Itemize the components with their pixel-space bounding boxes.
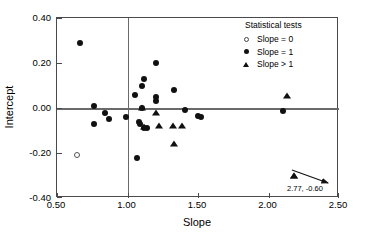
legend-item[interactable]: Slope = 1: [238, 46, 302, 58]
y-axis-tick-label: -0.40: [29, 192, 51, 203]
data-point: [141, 76, 147, 82]
y-axis-tick-label: 0.20: [33, 57, 52, 68]
legend-item[interactable]: Slope > 1: [238, 58, 302, 70]
data-point: [155, 122, 163, 128]
y-axis-tick-label: 0.00: [33, 102, 52, 113]
legend-title: Statistical tests: [245, 19, 302, 31]
data-point: [182, 107, 188, 113]
legend: Statistical tests Slope = 0Slope = 1Slop…: [238, 19, 302, 70]
data-point: [132, 92, 138, 98]
y-axis-tick: [57, 108, 62, 109]
x-axis-tick: [128, 193, 129, 198]
data-point: [153, 98, 159, 104]
filled-circle-icon: [238, 49, 254, 54]
data-point: [178, 122, 186, 128]
annotation-label: 2.77, -0.60: [287, 184, 323, 193]
y-axis-tick-label: -0.20: [29, 147, 51, 158]
x-axis-tick-label: 1.00: [117, 199, 136, 210]
y-axis-title: Intercept: [3, 86, 15, 129]
data-point: [123, 114, 129, 120]
x-axis-tick: [198, 193, 199, 198]
data-point: [140, 124, 148, 130]
y-axis-tick: [57, 18, 62, 19]
data-point: [171, 87, 177, 93]
legend-item-label: Slope = 1: [257, 46, 293, 58]
open-circle-icon: [238, 37, 254, 42]
x-axis-tick-label: 2.50: [329, 199, 348, 210]
data-point: [198, 114, 204, 120]
data-point: [91, 121, 97, 127]
data-point: [280, 108, 286, 114]
data-point: [152, 109, 160, 115]
reference-line-x1: [128, 18, 130, 198]
data-point: [153, 60, 159, 66]
data-point: [102, 110, 108, 116]
data-point: [74, 152, 80, 158]
data-point: [283, 92, 291, 98]
data-point: [139, 83, 145, 89]
x-axis-title: Slope: [183, 216, 211, 228]
data-point: [170, 140, 178, 146]
x-axis-tick: [269, 193, 270, 198]
legend-item-label: Slope = 0: [257, 33, 293, 45]
legend-item[interactable]: Slope = 0: [238, 33, 302, 45]
data-point: [91, 103, 97, 109]
y-axis-tick: [57, 63, 62, 64]
legend-entries: Slope = 0Slope = 1Slope > 1: [238, 33, 302, 70]
data-point: [138, 104, 146, 110]
reference-line-y0: [57, 108, 339, 110]
data-point: [134, 155, 140, 161]
legend-item-label: Slope > 1: [257, 58, 293, 70]
data-point: [77, 40, 83, 46]
y-axis-tick: [57, 197, 62, 198]
filled-triangle-icon: [238, 62, 254, 67]
x-axis-tick-label: 1.50: [188, 199, 207, 210]
x-axis-tick-label: 2.00: [258, 199, 277, 210]
data-point: [169, 122, 177, 128]
data-point: [106, 116, 112, 122]
x-axis-tick: [338, 193, 339, 198]
y-axis-tick-label: 0.40: [33, 12, 52, 23]
scatter-plot-figure: Intercept Slope 0.501.001.502.002.500.40…: [0, 0, 366, 241]
y-axis-tick: [57, 153, 62, 154]
